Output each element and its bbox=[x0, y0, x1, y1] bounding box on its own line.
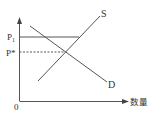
demand-label: D bbox=[108, 79, 115, 90]
x-axis-arrow-icon bbox=[122, 99, 129, 104]
origin-label: 0 bbox=[14, 102, 19, 112]
x-axis-label: 数量 bbox=[130, 97, 148, 107]
supply-label: S bbox=[101, 8, 107, 19]
y-axis-arrow-icon bbox=[17, 17, 22, 24]
p1-label: P1 bbox=[7, 32, 15, 43]
pstar-label: P* bbox=[6, 48, 16, 58]
supply-curve bbox=[38, 16, 100, 81]
supply-demand-chart: S D P1 P* 0 数量 bbox=[0, 0, 152, 117]
demand-curve bbox=[30, 26, 107, 82]
